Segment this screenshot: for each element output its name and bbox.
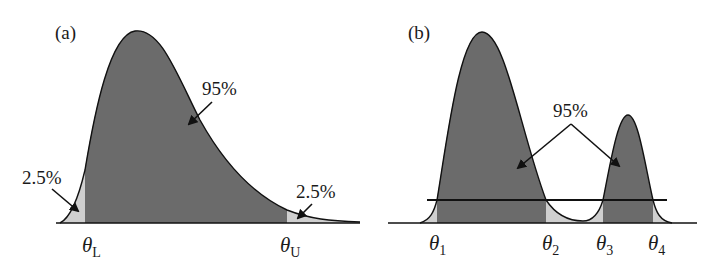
- theta-1-label: θ1: [429, 231, 446, 258]
- theta-upper-label: θU: [280, 233, 300, 260]
- panel-a-center-label: 95%: [202, 78, 237, 99]
- panel-b: (b) 95% θ1 θ2 θ3 θ4: [388, 22, 697, 258]
- panel-b-center-label: 95%: [553, 100, 588, 121]
- arrow-b-right: [571, 124, 619, 166]
- theta-lower-label: θL: [82, 233, 101, 260]
- arrow-a-left-tail: [52, 189, 78, 211]
- theta-4-label: θ4: [648, 231, 665, 258]
- panel-a-left-tail-label: 2.5%: [22, 167, 62, 188]
- figure: (a) 95% 2.5% 2.5% θL θU (b) 95%: [0, 0, 720, 274]
- panel-a-label: (a): [55, 22, 76, 44]
- panel-b-label: (b): [408, 22, 430, 44]
- panel-a-right-tail-label: 2.5%: [296, 181, 336, 202]
- panel-a: (a) 95% 2.5% 2.5% θL θU: [22, 22, 360, 260]
- theta-3-label: θ3: [596, 231, 613, 258]
- theta-2-label: θ2: [542, 231, 559, 258]
